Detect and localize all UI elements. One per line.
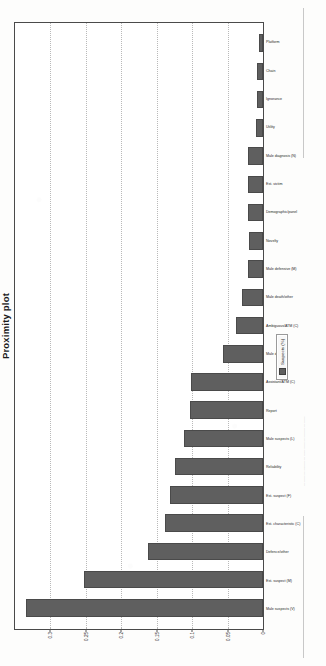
bar <box>248 204 263 222</box>
bar <box>249 232 263 250</box>
bar-slot <box>15 142 263 170</box>
bar-slot <box>15 566 263 594</box>
x-axis-tick-label: Est. victim <box>266 182 282 186</box>
x-axis-tick-label: Platform <box>266 40 279 44</box>
x-label-slot: Est. characteristic (C) <box>264 510 298 538</box>
x-label-slot: Ignorance <box>264 85 298 113</box>
bar <box>236 317 263 335</box>
bar <box>223 345 263 363</box>
y-tick-label: 0.05 <box>225 629 230 641</box>
bar-slot <box>15 453 263 481</box>
bar <box>175 458 263 476</box>
x-label-slot: Male suspects (V) <box>264 595 298 623</box>
bar <box>248 147 263 165</box>
y-tick-label: 0.1 <box>190 629 195 638</box>
x-axis-tick-label: Ignorance <box>266 97 282 101</box>
bar-slot <box>15 594 263 622</box>
bar-slot <box>15 29 263 57</box>
bar <box>248 260 263 278</box>
bar-slot <box>15 424 263 452</box>
x-axis-category-labels: Male suspects (V)Est. suspect (M)Defence… <box>264 22 298 630</box>
chart-plot-frame: 00.050.10.150.20.250.3 <box>14 22 264 630</box>
page-margin-rule-bottom <box>303 516 304 658</box>
bar-slot <box>15 114 263 142</box>
x-axis-tick-label: Est. suspect (M) <box>266 579 292 583</box>
x-label-slot: Reliability <box>264 453 298 481</box>
bar-slot <box>15 340 263 368</box>
bar <box>242 289 263 307</box>
bar <box>257 91 263 109</box>
bar-slot <box>15 509 263 537</box>
bar <box>259 34 263 52</box>
bar-slot <box>15 283 263 311</box>
y-tick-label: 0.15 <box>154 629 159 641</box>
bar-slot <box>15 227 263 255</box>
x-label-slot: Est. victim <box>264 170 298 198</box>
x-axis-tick-label: Ambiguous/ATM (C) <box>266 324 298 328</box>
x-label-slot: Utility <box>264 113 298 141</box>
y-tick-label: 0.25 <box>83 629 88 641</box>
chart-legend: Suspects (%) <box>276 334 288 380</box>
bar <box>190 402 263 420</box>
x-axis-tick-label: Reliability <box>266 465 281 469</box>
page-margin-rule-top <box>303 8 304 158</box>
x-axis-tick-label: Male suspects (V) <box>266 607 295 611</box>
bar-slot <box>15 537 263 565</box>
chart-title: Proximity plot <box>0 22 11 630</box>
bar <box>26 599 263 617</box>
x-axis-tick-label: Assistant/ATM (C) <box>266 380 295 384</box>
x-axis-tick-label: Defence/other <box>266 550 289 554</box>
y-tick-label: 0.2 <box>119 629 124 638</box>
x-label-slot: Male defensive (M) <box>264 255 298 283</box>
page-bleedthrough-text: — —— — ——— — —— —— — ——— — —— <box>302 186 324 486</box>
bar <box>84 571 263 589</box>
bar-slot <box>15 481 263 509</box>
bar-slot <box>15 86 263 114</box>
x-label-slot: Est. suspect (M) <box>264 566 298 594</box>
x-axis-tick-label: Chain <box>266 69 275 73</box>
y-tick-label: 0.3 <box>48 629 53 638</box>
bar-series-suspects <box>15 23 263 629</box>
plot-area: 00.050.10.150.20.250.3 <box>15 23 263 629</box>
legend-swatch-suspects <box>279 368 286 375</box>
x-axis-tick-label: Demographic/panel <box>266 210 297 214</box>
x-label-slot: Male diagnosis (N) <box>264 141 298 169</box>
x-label-slot: Defence/other <box>264 538 298 566</box>
bar-slot <box>15 255 263 283</box>
rotated-chart-container: Proximity plot 00.050.10.150.20.250.3 Ma… <box>0 0 300 666</box>
legend-label-suspects: Suspects (%) <box>280 339 285 365</box>
bar <box>191 373 263 391</box>
x-axis-tick-label: Male diagnosis (N) <box>266 154 296 158</box>
x-axis-tick-label: Est. suspect (F) <box>266 494 291 498</box>
bar-slot <box>15 198 263 226</box>
x-axis-tick-label: Male death/other <box>266 295 293 299</box>
bar <box>257 63 263 81</box>
x-label-slot: Novelty <box>264 226 298 254</box>
bar-slot <box>15 396 263 424</box>
bar <box>248 176 263 194</box>
x-axis-tick-label: Utility <box>266 125 275 129</box>
x-axis-tick-label: Report <box>266 409 277 413</box>
bar-slot <box>15 57 263 85</box>
bar <box>170 486 263 504</box>
x-axis-tick-label: Novelty <box>266 239 278 243</box>
bar <box>256 119 263 137</box>
bar-slot <box>15 311 263 339</box>
x-label-slot: Male suspects (L) <box>264 425 298 453</box>
x-label-slot: Est. suspect (F) <box>264 481 298 509</box>
bar <box>165 514 263 532</box>
x-label-slot: Chain <box>264 56 298 84</box>
x-label-slot: Platform <box>264 28 298 56</box>
bar <box>184 430 263 448</box>
bar-slot <box>15 368 263 396</box>
x-axis-tick-label: Male defensive (M) <box>266 267 297 271</box>
x-axis-tick-label: Male suspects (L) <box>266 437 294 441</box>
x-axis-tick-label: Est. characteristic (C) <box>266 522 300 526</box>
x-label-slot: Demographic/panel <box>264 198 298 226</box>
bar-slot <box>15 170 263 198</box>
scanned-page: — —— — ——— — —— —— — ——— — —— Proximity … <box>0 0 326 666</box>
bar <box>148 543 263 561</box>
x-label-slot: Report <box>264 396 298 424</box>
x-label-slot: Male death/other <box>264 283 298 311</box>
